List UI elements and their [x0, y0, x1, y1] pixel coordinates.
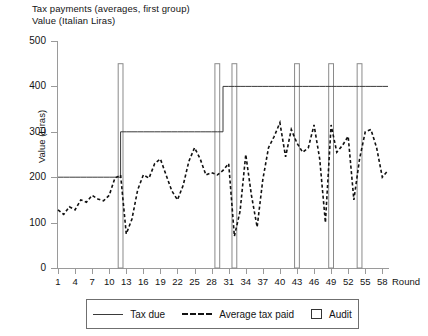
dashed-line-icon — [182, 313, 212, 315]
x-tick-label: 58 — [373, 276, 391, 287]
x-tick-label: 13 — [117, 276, 135, 287]
x-tick-label: 19 — [151, 276, 169, 287]
y-tick — [51, 223, 57, 224]
solid-line-icon — [93, 314, 123, 315]
x-tick-label: 31 — [220, 276, 238, 287]
x-tick-label: 1 — [49, 276, 67, 287]
x-tick-label: 46 — [305, 276, 323, 287]
y-tick-label: 200 — [12, 171, 46, 182]
x-tick-label: 4 — [66, 276, 84, 287]
average-tax-paid-line — [58, 123, 388, 237]
x-tick-label: 49 — [322, 276, 340, 287]
x-tick-label: 28 — [203, 276, 221, 287]
chart-subtitle: Value (Italian Liras) — [32, 15, 115, 26]
y-tick-label: 400 — [12, 80, 46, 91]
chart-legend: Tax due Average tax paid Audit — [86, 299, 359, 329]
legend-item-average-tax-paid: Average tax paid — [182, 309, 294, 320]
audit-bar — [329, 64, 334, 268]
tax-due-line — [58, 86, 388, 177]
audit-bar — [232, 64, 237, 268]
open-square-icon — [311, 309, 322, 319]
legend-item-tax-due: Tax due — [93, 309, 165, 320]
x-tick-label: 52 — [339, 276, 357, 287]
legend-label-average-tax-paid: Average tax paid — [219, 309, 294, 320]
x-tick-label: 43 — [288, 276, 306, 287]
x-tick-label: 10 — [100, 276, 118, 287]
x-tick-label: 16 — [134, 276, 152, 287]
y-tick — [51, 41, 57, 42]
x-tick-label: 34 — [237, 276, 255, 287]
y-tick — [51, 177, 57, 178]
plot-area — [58, 41, 388, 268]
x-tick-label: 40 — [271, 276, 289, 287]
legend-label-audit: Audit — [329, 309, 352, 320]
y-tick-label: 100 — [12, 217, 46, 228]
chart-title: Tax payments (averages, first group) — [32, 3, 190, 14]
y-tick-label: 300 — [12, 126, 46, 137]
chart-figure: Tax payments (averages, first group) Val… — [0, 0, 428, 336]
legend-item-audit: Audit — [311, 309, 352, 320]
y-tick-label: 500 — [12, 35, 46, 46]
x-tick-label: 25 — [186, 276, 204, 287]
y-tick-label: 0 — [12, 262, 46, 273]
audit-bar — [295, 64, 300, 268]
y-tick — [51, 132, 57, 133]
y-tick — [51, 86, 57, 87]
x-tick-label: 22 — [168, 276, 186, 287]
x-tick-label: 55 — [356, 276, 374, 287]
chart-canvas — [58, 41, 388, 273]
audit-bars-group — [118, 64, 362, 268]
y-tick — [51, 268, 57, 269]
legend-label-tax-due: Tax due — [130, 309, 165, 320]
x-tick-label: 37 — [254, 276, 272, 287]
x-tick-label: 7 — [83, 276, 101, 287]
x-axis-title: Round — [392, 276, 420, 287]
audit-bar — [215, 64, 220, 268]
